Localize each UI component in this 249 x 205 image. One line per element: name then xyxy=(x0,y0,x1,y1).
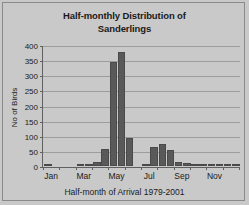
y-axis-tick-label: 50 xyxy=(29,147,38,156)
x-axis-tick xyxy=(223,167,224,170)
y-axis-tick-label: 0 xyxy=(34,163,38,172)
x-axis-tick-label: May xyxy=(108,171,124,181)
x-axis-tick xyxy=(108,167,109,170)
x-axis-tick xyxy=(174,167,175,170)
y-axis-tick-label: 100 xyxy=(25,132,38,141)
y-axis-tick xyxy=(40,46,43,47)
chart-title: Half-monthly Distribution of Sanderlings xyxy=(3,10,246,35)
x-axis-tick-label: Sep xyxy=(174,171,189,181)
y-axis-tick xyxy=(40,122,43,123)
bar xyxy=(159,144,167,166)
x-axis-tick xyxy=(76,167,77,170)
plot-area: 050100150200250300350400 JanMarMayJulSep… xyxy=(42,46,240,168)
x-axis-tick-label: Jan xyxy=(44,171,58,181)
y-axis-title: No of Birds xyxy=(9,46,21,168)
bar xyxy=(118,52,126,166)
bar xyxy=(216,164,224,166)
x-axis-tick xyxy=(206,167,207,170)
bar xyxy=(167,150,175,166)
x-axis-tick xyxy=(43,167,44,170)
bar xyxy=(232,164,240,166)
y-axis-tick-label: 250 xyxy=(25,87,38,96)
bar xyxy=(44,164,52,166)
y-axis-tick-label: 150 xyxy=(25,117,38,126)
y-axis-tick xyxy=(40,91,43,92)
y-axis-tick xyxy=(40,76,43,77)
bar xyxy=(85,164,93,166)
x-axis-tick-label: Jul xyxy=(144,171,155,181)
y-axis-tick-label: 200 xyxy=(25,102,38,111)
x-axis-tick-label: Mar xyxy=(77,171,92,181)
chart-frame: Half-monthly Distribution of Sanderlings… xyxy=(2,2,245,201)
x-axis-tick-label: Nov xyxy=(207,171,222,181)
bar xyxy=(110,62,118,166)
y-axis-tick-label: 350 xyxy=(25,57,38,66)
bar xyxy=(175,162,183,166)
y-axis-tick xyxy=(40,137,43,138)
x-axis-tick xyxy=(190,167,191,170)
y-axis-tick xyxy=(40,61,43,62)
x-axis-tick xyxy=(239,167,240,170)
bar xyxy=(150,147,158,166)
bar xyxy=(142,164,150,166)
y-axis-tick-label: 300 xyxy=(25,72,38,81)
chart-title-line-2: Sanderlings xyxy=(3,23,246,36)
bar xyxy=(126,138,134,166)
y-axis-title-label: No of Birds xyxy=(11,87,20,127)
bar-series xyxy=(44,46,240,166)
x-axis-tick xyxy=(157,167,158,170)
bar xyxy=(224,164,232,166)
bar xyxy=(93,162,101,166)
bar xyxy=(183,163,191,166)
bar xyxy=(77,164,85,166)
x-axis-tick xyxy=(92,167,93,170)
y-axis-tick xyxy=(40,152,43,153)
x-axis-tick xyxy=(125,167,126,170)
y-axis-tick xyxy=(40,107,43,108)
x-axis-tick xyxy=(141,167,142,170)
bar xyxy=(208,164,216,166)
y-axis-tick-label: 400 xyxy=(25,42,38,51)
x-axis-tick xyxy=(59,167,60,170)
chart-title-line-1: Half-monthly Distribution of xyxy=(3,10,246,23)
bar xyxy=(199,164,207,166)
bar xyxy=(191,164,199,166)
bar xyxy=(101,149,109,166)
x-axis-title: Half-month of Arrival 1979-2001 xyxy=(3,187,246,197)
